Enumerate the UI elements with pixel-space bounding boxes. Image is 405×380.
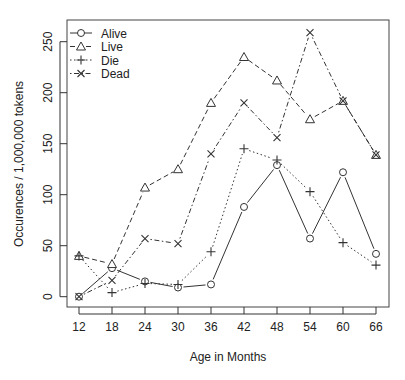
x-tick-label: 24 (138, 320, 152, 334)
plus-marker-icon (77, 56, 86, 65)
x-marker-icon (175, 240, 182, 247)
triangle-marker-icon (240, 53, 249, 61)
triangle-marker-icon (207, 98, 216, 106)
circle-marker-icon (307, 235, 314, 242)
legend: AliveLiveDieDead (70, 27, 130, 82)
triangle-marker-icon (141, 183, 150, 191)
x-tick-label: 12 (72, 320, 86, 334)
legend-label: Alive (101, 27, 127, 41)
x-tick-label: 60 (336, 320, 350, 334)
legend-item-die: Die (70, 54, 119, 68)
circle-marker-icon (340, 169, 347, 176)
triangle-marker-icon (273, 76, 282, 84)
x-tick-label: 30 (171, 320, 185, 334)
x-marker-icon (142, 235, 149, 242)
y-axis: 050100150200250 (41, 31, 67, 300)
x-marker-icon (208, 150, 215, 157)
y-tick-label: 250 (41, 31, 55, 51)
plus-marker-icon (207, 247, 216, 256)
y-tick-label: 100 (41, 184, 55, 204)
y-tick-label: 200 (41, 82, 55, 102)
x-marker-icon (274, 134, 281, 141)
legend-label: Live (101, 40, 123, 54)
x-tick-label: 42 (237, 320, 251, 334)
y-tick-label: 0 (41, 293, 55, 300)
legend-label: Die (101, 54, 119, 68)
legend-item-alive: Alive (70, 27, 127, 41)
legend-item-live: Live (70, 40, 123, 54)
series-live (75, 53, 381, 268)
x-tick-label: 54 (303, 320, 317, 334)
plus-marker-icon (372, 261, 381, 270)
x-axis-label: Age in Months (190, 350, 267, 364)
plus-marker-icon (339, 238, 348, 247)
x-tick-label: 18 (105, 320, 119, 334)
y-axis-label: Occurences / 1,000,000 tokens (12, 81, 26, 247)
x-axis: 12182430364248546066 (72, 307, 383, 334)
triangle-marker-icon (306, 115, 315, 123)
y-tick-label: 50 (41, 239, 55, 253)
plus-marker-icon (108, 288, 117, 297)
circle-marker-icon (373, 250, 380, 257)
y-tick-label: 150 (41, 133, 55, 153)
x-marker-icon (241, 99, 248, 106)
circle-marker-icon (78, 30, 85, 37)
x-tick-label: 36 (204, 320, 218, 334)
triangle-marker-icon (108, 260, 117, 268)
triangle-marker-icon (174, 165, 183, 173)
x-marker-icon (109, 277, 116, 284)
legend-label: Dead (101, 67, 130, 81)
series-alive (76, 162, 380, 301)
x-tick-label: 66 (369, 320, 383, 334)
circle-marker-icon (241, 203, 248, 210)
circle-marker-icon (208, 281, 215, 288)
x-marker-icon (307, 29, 314, 36)
legend-item-dead: Dead (70, 67, 130, 81)
triangle-marker-icon (77, 42, 86, 50)
plus-marker-icon (240, 144, 249, 153)
plus-marker-icon (306, 187, 315, 196)
line-chart: 050100150200250 12182430364248546066 Ali… (0, 0, 405, 380)
x-tick-label: 48 (270, 320, 284, 334)
series-die (75, 144, 381, 297)
